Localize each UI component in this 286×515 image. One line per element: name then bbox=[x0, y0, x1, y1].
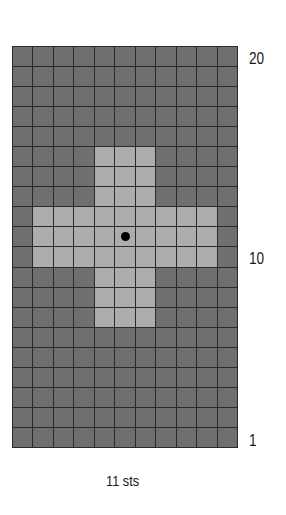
chart-cell bbox=[54, 167, 73, 186]
chart-cell bbox=[74, 247, 93, 266]
chart-cell bbox=[177, 67, 196, 86]
chart-cell bbox=[156, 47, 175, 66]
chart-cell bbox=[156, 207, 175, 226]
chart-cell bbox=[197, 268, 216, 287]
chart-cell bbox=[218, 207, 237, 226]
chart-cell bbox=[115, 247, 134, 266]
chart-cell bbox=[95, 247, 114, 266]
chart-cell bbox=[95, 227, 114, 246]
chart-cell bbox=[156, 288, 175, 307]
chart-cell bbox=[33, 268, 52, 287]
chart-cell bbox=[218, 127, 237, 146]
chart-cell bbox=[54, 408, 73, 427]
stitch-count-label: 11 sts bbox=[106, 472, 139, 489]
chart-cell bbox=[13, 107, 32, 126]
chart-cell bbox=[74, 127, 93, 146]
chart-cell bbox=[33, 87, 52, 106]
chart-cell bbox=[177, 268, 196, 287]
chart-cell bbox=[156, 87, 175, 106]
chart-cell bbox=[115, 368, 134, 387]
chart-cell bbox=[156, 147, 175, 166]
chart-cell bbox=[54, 247, 73, 266]
chart-cell bbox=[54, 87, 73, 106]
chart-cell bbox=[115, 167, 134, 186]
chart-cell bbox=[177, 428, 196, 447]
chart-cell bbox=[136, 87, 155, 106]
chart-cell bbox=[197, 388, 216, 407]
row-label-20: 20 bbox=[249, 50, 264, 68]
chart-cell bbox=[54, 67, 73, 86]
chart-cell bbox=[197, 187, 216, 206]
chart-cell bbox=[218, 107, 237, 126]
chart-cell bbox=[54, 368, 73, 387]
chart-cell bbox=[13, 47, 32, 66]
chart-cell bbox=[54, 268, 73, 287]
chart-cell bbox=[74, 268, 93, 287]
chart-cell bbox=[156, 107, 175, 126]
chart-cell bbox=[74, 67, 93, 86]
chart-cell bbox=[156, 388, 175, 407]
chart-cell bbox=[177, 247, 196, 266]
chart-cell bbox=[218, 227, 237, 246]
chart-cell bbox=[177, 408, 196, 427]
chart-cell bbox=[95, 428, 114, 447]
chart-cell bbox=[115, 428, 134, 447]
chart-cell bbox=[13, 167, 32, 186]
chart-cell bbox=[33, 147, 52, 166]
chart-cell bbox=[218, 87, 237, 106]
chart-cell bbox=[115, 348, 134, 367]
chart-cell bbox=[54, 308, 73, 327]
chart-cell bbox=[115, 67, 134, 86]
row-label-1: 1 bbox=[249, 432, 257, 450]
chart-cell bbox=[13, 388, 32, 407]
chart-cell bbox=[136, 308, 155, 327]
chart-cell bbox=[74, 187, 93, 206]
chart-cell bbox=[156, 187, 175, 206]
chart-cell bbox=[13, 147, 32, 166]
chart-cell bbox=[218, 147, 237, 166]
chart-cell bbox=[218, 348, 237, 367]
chart-cell bbox=[197, 348, 216, 367]
center-marker-dot bbox=[121, 232, 130, 241]
chart-cell bbox=[13, 328, 32, 347]
chart-cell bbox=[177, 187, 196, 206]
chart-cell bbox=[33, 348, 52, 367]
chart-cell bbox=[13, 207, 32, 226]
chart-cell bbox=[95, 207, 114, 226]
chart-cell bbox=[95, 368, 114, 387]
chart-cell bbox=[136, 428, 155, 447]
chart-cell bbox=[95, 67, 114, 86]
chart-cell bbox=[218, 328, 237, 347]
chart-cell bbox=[33, 247, 52, 266]
chart-cell bbox=[136, 107, 155, 126]
chart-cell bbox=[13, 127, 32, 146]
chart-cell bbox=[115, 288, 134, 307]
chart-cell bbox=[197, 368, 216, 387]
chart-cell bbox=[156, 127, 175, 146]
chart-cell bbox=[13, 67, 32, 86]
chart-cell bbox=[136, 408, 155, 427]
chart-cell bbox=[115, 207, 134, 226]
chart-cell bbox=[33, 107, 52, 126]
chart-cell bbox=[33, 328, 52, 347]
chart-cell bbox=[136, 67, 155, 86]
chart-cell bbox=[156, 408, 175, 427]
chart-cell bbox=[13, 87, 32, 106]
chart-cell bbox=[177, 288, 196, 307]
chart-cell bbox=[95, 348, 114, 367]
chart-cell bbox=[218, 308, 237, 327]
chart-cell bbox=[54, 227, 73, 246]
chart-cell bbox=[74, 408, 93, 427]
chart-cell bbox=[218, 428, 237, 447]
chart-cell bbox=[156, 348, 175, 367]
chart-cell bbox=[177, 47, 196, 66]
chart-cell bbox=[197, 67, 216, 86]
chart-cell bbox=[74, 207, 93, 226]
chart-cell bbox=[136, 328, 155, 347]
chart-cell bbox=[177, 207, 196, 226]
chart-cell bbox=[74, 227, 93, 246]
chart-cell bbox=[95, 388, 114, 407]
chart-cell bbox=[136, 388, 155, 407]
chart-cell bbox=[95, 288, 114, 307]
chart-cell bbox=[13, 408, 32, 427]
